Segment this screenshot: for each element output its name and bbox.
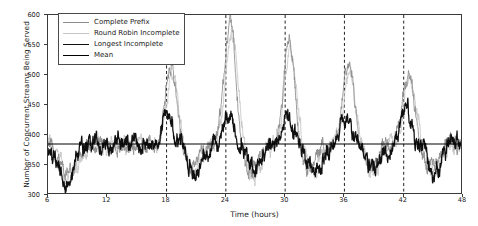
x-tick-label: 42 — [391, 196, 415, 204]
x-tick-label: 48 — [450, 196, 474, 204]
x-tick-label: 30 — [272, 196, 296, 204]
legend-item: Round Robin Incomplete — [63, 28, 179, 39]
legend-line-swatch — [63, 22, 89, 23]
x-tick-label: 24 — [213, 196, 237, 204]
y-tick-label: 450 — [18, 101, 40, 109]
x-tick-label: 12 — [94, 196, 118, 204]
x-tick-mark — [225, 194, 226, 197]
legend-label: Round Robin Incomplete — [94, 28, 179, 39]
x-axis-title: Time (hours) — [47, 210, 462, 219]
legend-line-swatch — [63, 33, 89, 34]
y-tick-label: 600 — [18, 11, 40, 19]
x-tick-mark — [343, 194, 344, 197]
y-tick-label: 500 — [18, 71, 40, 79]
chart-legend: Complete PrefixRound Robin IncompleteLon… — [58, 13, 185, 65]
x-tick-mark — [106, 194, 107, 197]
y-tick-label: 350 — [18, 161, 40, 169]
legend-label: Longest Incomplete — [94, 39, 163, 50]
legend-line-swatch — [63, 55, 89, 56]
x-tick-label: 36 — [331, 196, 355, 204]
legend-label: Complete Prefix — [94, 17, 150, 28]
y-tick-label: 550 — [18, 41, 40, 49]
x-tick-label: 6 — [35, 196, 59, 204]
x-tick-mark — [403, 194, 404, 197]
legend-item: Longest Incomplete — [63, 39, 179, 50]
x-tick-label: 18 — [154, 196, 178, 204]
chart-figure: Number of Concurrent Streams Being Serve… — [0, 0, 478, 226]
x-tick-mark — [47, 194, 48, 197]
y-tick-label: 400 — [18, 131, 40, 139]
x-tick-mark — [166, 194, 167, 197]
legend-line-swatch — [63, 44, 89, 45]
legend-label: Mean — [94, 50, 113, 61]
x-tick-mark — [462, 194, 463, 197]
legend-item: Mean — [63, 50, 179, 61]
x-tick-mark — [284, 194, 285, 197]
legend-item: Complete Prefix — [63, 17, 179, 28]
